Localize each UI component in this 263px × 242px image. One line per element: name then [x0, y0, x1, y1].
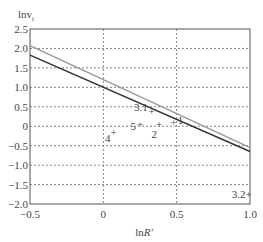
data-point-label: 5: [131, 120, 137, 132]
data-point-label: 4: [105, 132, 111, 144]
y-tick-label: −1.0: [8, 159, 28, 171]
y-tick-label: 0: [23, 120, 29, 132]
data-point-marker: +: [149, 105, 155, 117]
data-point-marker: +: [245, 188, 251, 200]
plot-frame: [30, 29, 250, 204]
y-axis-label: lnvi: [18, 8, 34, 23]
y-tick-label: 2.0: [14, 42, 28, 54]
fit-line: [30, 46, 250, 148]
x-axis-label: lnR': [135, 226, 153, 238]
data-point-label: 3.2: [232, 188, 246, 200]
y-tick-label: −1.5: [8, 179, 28, 191]
data-point-label: 3.1: [134, 101, 148, 113]
data-point-marker: +: [137, 118, 143, 130]
x-tick-label: 1.0: [243, 208, 257, 220]
y-tick-label: 1.5: [14, 62, 28, 74]
x-tick-label: 0: [101, 208, 107, 220]
x-tick-label: 0.5: [170, 208, 184, 220]
data-point-label: 2: [152, 128, 158, 140]
y-tick-label: 2.5: [14, 23, 28, 35]
y-tick-label: −0.5: [8, 140, 28, 152]
chart: −2.0−1.5−1.0−0.500.51.01.52.02.5−0.500.5…: [0, 0, 263, 242]
y-tick-label: 0.5: [14, 101, 28, 113]
x-tick-label: −0.5: [20, 208, 40, 220]
data-point-marker: +: [171, 116, 177, 128]
data-point-marker: +: [110, 126, 116, 138]
y-tick-label: 1.0: [14, 81, 28, 93]
data-point-label: 1: [178, 114, 184, 126]
